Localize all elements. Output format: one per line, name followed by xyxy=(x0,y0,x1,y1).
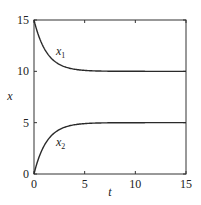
x-axis-label: t xyxy=(108,185,112,199)
x-tick-label: 15 xyxy=(180,177,192,191)
axis-ticks: 051015051015 xyxy=(17,13,192,191)
line-chart: 051015051015 t x x1 x2 xyxy=(0,0,201,205)
x-tick-label: 10 xyxy=(129,177,141,191)
y-tick-label: 5 xyxy=(23,116,29,130)
y-axis-label: x xyxy=(6,89,13,103)
x-tick-label: 5 xyxy=(82,177,88,191)
series-label-x1: x1 xyxy=(55,44,65,60)
y-tick-label: 15 xyxy=(17,13,29,27)
y-tick-label: 10 xyxy=(17,64,29,78)
series-label-x2: x2 xyxy=(55,135,65,151)
x-tick-label: 0 xyxy=(31,177,37,191)
y-tick-label: 0 xyxy=(23,167,29,181)
